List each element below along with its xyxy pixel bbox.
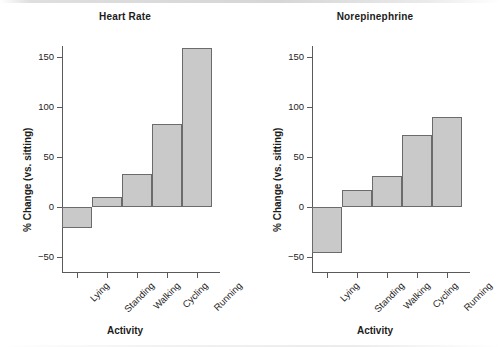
- y-axis-tick: [307, 57, 312, 58]
- y-axis-tick-label: 150: [14, 51, 54, 62]
- x-axis-tick-label: Lying: [338, 280, 362, 304]
- x-axis-tick-label: Cycling: [430, 280, 460, 310]
- bar[interactable]: [342, 190, 372, 207]
- x-axis-tick: [107, 273, 108, 278]
- x-axis-tick-label: Standing: [372, 280, 406, 314]
- y-axis-tick-label: 0: [264, 201, 304, 212]
- panel-heart-rate: Heart Rate % Change (vs. sitting) Activi…: [0, 0, 250, 347]
- bar[interactable]: [62, 207, 92, 228]
- y-axis-tick-label: −50: [14, 251, 54, 262]
- x-axis-tick: [357, 273, 358, 278]
- panel-norepinephrine: Norepinephrine % Change (vs. sitting) Ac…: [250, 0, 500, 347]
- y-axis-tick-label: 0: [14, 201, 54, 212]
- bar[interactable]: [92, 197, 122, 207]
- y-axis-tick: [307, 157, 312, 158]
- y-axis-tick-label: 50: [264, 151, 304, 162]
- x-axis-tick: [167, 273, 168, 278]
- x-axis-tick-label: Walking: [151, 280, 182, 311]
- bar[interactable]: [152, 124, 182, 207]
- x-axis-tick: [387, 273, 388, 278]
- bar[interactable]: [372, 176, 402, 207]
- x-axis-tick: [137, 273, 138, 278]
- plot-area: −50050100150LyingStandingWalkingCyclingR…: [0, 0, 250, 347]
- y-axis-tick: [57, 257, 62, 258]
- y-axis-tick-label: −50: [264, 251, 304, 262]
- y-axis-tick: [57, 107, 62, 108]
- bar[interactable]: [432, 117, 462, 207]
- x-axis-tick-label: Running: [461, 280, 494, 313]
- bar[interactable]: [122, 174, 152, 207]
- y-axis-tick: [57, 157, 62, 158]
- x-axis-tick: [447, 273, 448, 278]
- x-axis-tick-label: Walking: [401, 280, 432, 311]
- bar[interactable]: [402, 135, 432, 207]
- x-axis-tick-label: Running: [211, 280, 244, 313]
- y-axis-line: [62, 46, 63, 272]
- x-axis-tick: [197, 273, 198, 278]
- x-axis-tick-label: Lying: [88, 280, 112, 304]
- figure-root: Heart Rate % Change (vs. sitting) Activi…: [0, 0, 500, 347]
- y-axis-tick-label: 150: [264, 51, 304, 62]
- y-axis-tick-label: 50: [14, 151, 54, 162]
- x-axis-tick-label: Cycling: [180, 280, 210, 310]
- bar[interactable]: [182, 48, 212, 207]
- y-axis-tick: [307, 257, 312, 258]
- y-axis-tick: [307, 107, 312, 108]
- y-axis-tick-label: 100: [14, 101, 54, 112]
- x-axis-tick: [327, 273, 328, 278]
- y-axis-tick: [57, 57, 62, 58]
- x-axis-tick: [77, 273, 78, 278]
- x-axis-tick: [417, 273, 418, 278]
- plot-area: −50050100150LyingStandingWalkingCyclingR…: [250, 0, 500, 347]
- y-axis-tick-label: 100: [264, 101, 304, 112]
- bar[interactable]: [312, 207, 342, 253]
- x-axis-tick-label: Standing: [122, 280, 156, 314]
